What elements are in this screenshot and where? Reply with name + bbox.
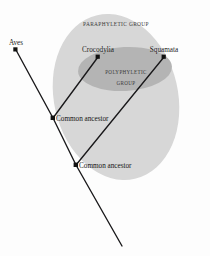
tip-node-squamata [162, 55, 166, 59]
tip-node-aves [13, 47, 17, 51]
ancestor-node-upper [51, 116, 55, 120]
ancestor-label-upper: Common ancestor [56, 115, 109, 123]
paraphyletic-group-label: PARAPHYLETIC GROUP [83, 21, 149, 27]
tip-node-crocodylia [96, 55, 100, 59]
branch-aves [16, 50, 53, 118]
taxon-label-crocodylia: Crocodylia [82, 46, 115, 54]
taxon-label-squamata: Squamata [150, 46, 179, 54]
phylogeny-canvas: PARAPHYLETIC GROUP POLYPHYLETIC GROUP [0, 0, 210, 256]
taxon-label-aves: Aves [9, 39, 23, 47]
polyphyletic-group-label-line1: POLYPHYLETIC [105, 69, 147, 75]
ancestor-node-lower [74, 163, 78, 167]
ancestor-label-lower: Common ancestor [79, 162, 132, 170]
polyphyletic-group-label-line2: GROUP [116, 80, 135, 86]
phylogeny-figure: PARAPHYLETIC GROUP POLYPHYLETIC GROUP [0, 0, 210, 256]
